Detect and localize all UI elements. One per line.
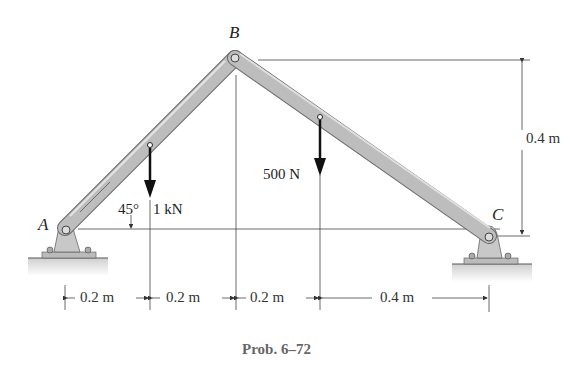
dim-label-2: 0.2 m	[166, 290, 200, 305]
dim-label-1: 0.2 m	[80, 290, 114, 305]
vertical-dim-label: 0.4 m	[526, 131, 560, 146]
load-500n-label: 500 N	[263, 167, 300, 182]
angle-label: 45°	[118, 202, 139, 217]
figure-caption: Prob. 6–72	[242, 342, 311, 357]
point-c-label: C	[492, 206, 503, 223]
dim-label-3: 0.2 m	[250, 290, 284, 305]
dim-label-4: 0.4 m	[380, 290, 414, 305]
load-1kn-label: 1 kN	[153, 202, 183, 217]
diagram-canvas	[0, 0, 571, 373]
frame-diagram: B A C 1 kN 500 N 45° 0.4 m 0.2 m 0.2 m 0…	[0, 0, 571, 373]
point-a-label: A	[38, 216, 48, 233]
member-bc	[235, 54, 490, 236]
point-b-label: B	[229, 24, 239, 41]
